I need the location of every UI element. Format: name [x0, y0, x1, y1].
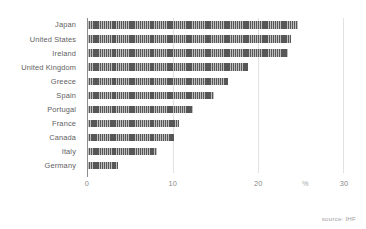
category-label: United Kingdom	[21, 63, 76, 72]
bar-row	[87, 60, 344, 74]
plot-area	[87, 18, 344, 173]
bar-row	[87, 117, 344, 131]
bar-row	[87, 32, 344, 46]
bar-row	[87, 145, 344, 159]
bar-row	[87, 131, 344, 145]
bar	[88, 120, 179, 127]
category-label: Greece	[51, 77, 76, 86]
bar	[88, 162, 118, 169]
bar-row	[87, 88, 344, 102]
bar-row	[87, 18, 344, 32]
x-tick-label: 30	[340, 179, 349, 188]
bar-chart-figure: Japan United States Ireland United Kingd…	[0, 0, 366, 229]
x-tick-label: 20	[254, 179, 263, 188]
bar	[88, 78, 228, 85]
category-label: Germany	[45, 161, 76, 170]
bar-row	[87, 46, 344, 60]
bar	[88, 35, 291, 42]
bar	[88, 106, 193, 113]
category-label: Japan	[55, 20, 76, 29]
bar	[88, 148, 157, 155]
value-axis-labels: 0 10 20 % 30	[87, 179, 344, 193]
bar	[88, 92, 214, 99]
axis-tick-zero	[87, 173, 88, 177]
category-label: Italy	[62, 147, 76, 156]
source-note: source: IHF	[322, 215, 356, 222]
axis-unit-label: %	[302, 179, 309, 188]
bar	[88, 49, 288, 56]
category-axis-labels: Japan United States Ireland United Kingd…	[0, 18, 82, 173]
category-label: United States	[30, 35, 76, 44]
x-tick-label: 0	[85, 179, 89, 188]
category-label: Ireland	[52, 49, 76, 58]
bar	[88, 21, 298, 28]
bar-row	[87, 74, 344, 88]
bar	[88, 134, 174, 141]
category-label: Canada	[49, 133, 76, 142]
category-label: Portugal	[47, 105, 76, 114]
bar-row	[87, 159, 344, 173]
category-label: Spain	[56, 91, 76, 100]
x-tick-label: 10	[168, 179, 177, 188]
category-label: France	[52, 119, 76, 128]
bar-row	[87, 103, 344, 117]
bar	[88, 63, 248, 70]
